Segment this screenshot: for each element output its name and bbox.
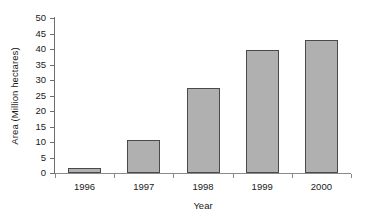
- x-axis-line: [54, 173, 351, 174]
- bar-2000: [305, 40, 338, 173]
- y-tick-mark: [50, 18, 55, 19]
- y-tick-mark: [50, 49, 55, 50]
- x-tick-label-2000: 2000: [291, 181, 351, 192]
- x-tick-label-1998: 1998: [173, 181, 233, 192]
- x-axis-title: Year: [55, 200, 351, 212]
- y-tick-mark: [50, 65, 55, 66]
- y-tick-label: 40: [18, 44, 46, 54]
- y-tick-label: 20: [18, 106, 46, 116]
- x-tick-mark: [292, 174, 293, 178]
- bar-chart: Area (Million hectares) 0510152025303540…: [0, 0, 365, 221]
- bar-1999: [246, 50, 279, 173]
- y-tick-label: 15: [18, 122, 46, 132]
- x-tick-mark: [233, 174, 234, 178]
- x-tick-label-1996: 1996: [55, 181, 115, 192]
- x-tick-mark: [55, 174, 56, 178]
- bar-1996: [68, 168, 101, 173]
- y-tick-mark: [50, 34, 55, 35]
- y-tick-mark: [50, 127, 55, 128]
- x-tick-mark: [351, 174, 352, 178]
- x-tick-label-1997: 1997: [114, 181, 174, 192]
- x-tick-label-1999: 1999: [232, 181, 292, 192]
- y-tick-mark: [50, 96, 55, 97]
- y-tick-label: 35: [18, 60, 46, 70]
- x-tick-mark: [173, 174, 174, 178]
- y-tick-mark: [50, 142, 55, 143]
- y-tick-label: 0: [18, 168, 46, 178]
- y-tick-label: 30: [18, 75, 46, 85]
- y-tick-mark: [50, 158, 55, 159]
- y-tick-label: 50: [18, 13, 46, 23]
- bar-1998: [187, 88, 220, 173]
- y-tick-label: 10: [18, 137, 46, 147]
- x-tick-mark: [114, 174, 115, 178]
- y-tick-label: 45: [18, 29, 46, 39]
- y-tick-label: 25: [18, 91, 46, 101]
- y-tick-label: 5: [18, 153, 46, 163]
- y-tick-mark: [50, 111, 55, 112]
- y-tick-mark: [50, 80, 55, 81]
- bar-1997: [127, 140, 160, 173]
